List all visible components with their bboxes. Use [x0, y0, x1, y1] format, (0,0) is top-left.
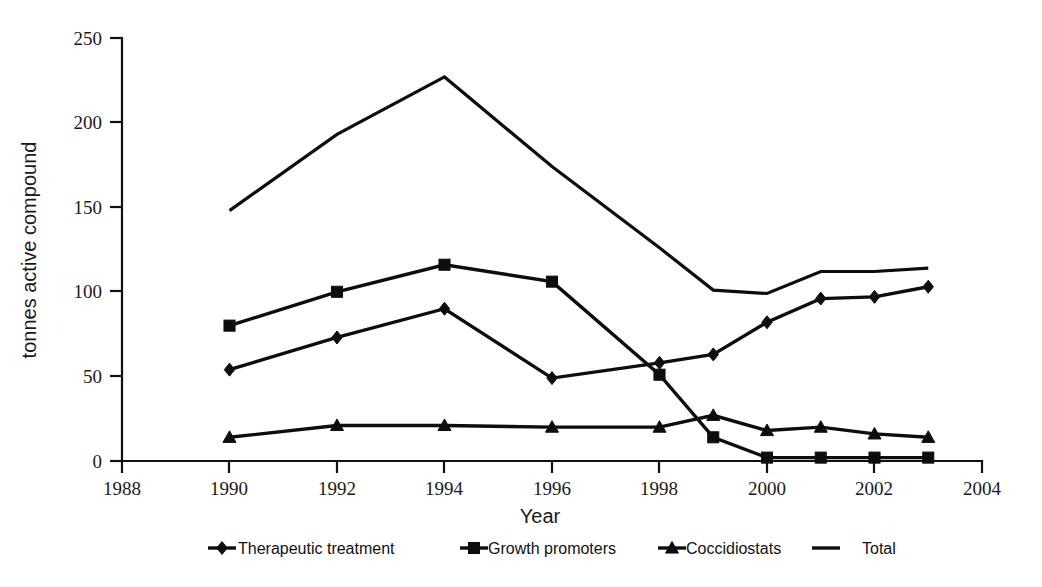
- data-point-0-2003: [923, 280, 933, 293]
- data-point-0-1996: [547, 372, 557, 385]
- legend-label-3: Total: [862, 540, 896, 557]
- data-point-0-2000: [762, 316, 772, 329]
- legend-label-0: Therapeutic treatment: [238, 540, 395, 557]
- y-tick-label-150: 150: [74, 197, 103, 218]
- y-axis: 250 200 150 100 50 0 tonnes active compo…: [18, 28, 122, 472]
- data-point-0-2002: [869, 290, 879, 303]
- square-marker-icon: [468, 542, 479, 553]
- series-total: [230, 77, 929, 294]
- data-point-1-1992: [331, 286, 342, 297]
- data-point-1-2002: [869, 452, 880, 463]
- x-axis: 1988 1990 1992 1994 1996 1998 2000 2002 …: [103, 461, 1002, 527]
- legend-item-0[interactable]: Therapeutic treatment: [208, 540, 395, 557]
- data-point-0-1994: [439, 302, 449, 315]
- data-point-1-1999: [708, 432, 719, 443]
- series-therapeutic-treatment: [224, 280, 933, 384]
- data-point-1-1994: [439, 259, 450, 270]
- x-tick-label-1992: 1992: [318, 478, 356, 499]
- legend-label-2: Coccidiostats: [686, 540, 781, 557]
- series-coccidiostats: [223, 409, 935, 443]
- data-point-1-2000: [761, 452, 772, 463]
- x-tick-label-1998: 1998: [640, 478, 678, 499]
- y-axis-title: tonnes active compound: [18, 142, 40, 359]
- data-point-1-2003: [923, 452, 934, 463]
- line-chart: 250 200 150 100 50 0 tonnes active compo…: [0, 0, 1042, 587]
- legend-item-2[interactable]: Coccidiostats: [658, 540, 781, 557]
- data-point-0-1990: [224, 363, 234, 376]
- x-tick-label-2002: 2002: [855, 478, 893, 499]
- x-tick-label-1988: 1988: [103, 478, 141, 499]
- x-tick-label-2004: 2004: [963, 478, 1002, 499]
- x-axis-title: Year: [520, 505, 561, 527]
- y-tick-label-250: 250: [74, 28, 103, 49]
- series-line-3: [230, 77, 929, 294]
- legend-item-1[interactable]: Growth promoters: [460, 540, 616, 557]
- chart-canvas: 250 200 150 100 50 0 tonnes active compo…: [0, 0, 1042, 587]
- y-tick-label-0: 0: [93, 451, 103, 472]
- data-point-0-2001: [816, 292, 826, 305]
- data-point-1-1996: [546, 276, 557, 287]
- y-tick-label-200: 200: [74, 112, 103, 133]
- diamond-marker-icon: [217, 542, 227, 555]
- data-point-0-1999: [708, 348, 718, 361]
- data-point-1-1998: [654, 369, 665, 380]
- y-tick-label-100: 100: [74, 281, 103, 302]
- x-tick-label-1990: 1990: [210, 478, 248, 499]
- y-tick-label-50: 50: [83, 366, 102, 387]
- series-layer: [223, 77, 935, 463]
- legend-label-1: Growth promoters: [488, 540, 616, 557]
- data-point-0-1992: [332, 331, 342, 344]
- data-point-1-1990: [224, 320, 235, 331]
- data-point-1-2001: [815, 452, 826, 463]
- x-tick-label-1996: 1996: [533, 478, 571, 499]
- data-point-0-1998: [654, 356, 664, 369]
- x-tick-label-2000: 2000: [748, 478, 786, 499]
- chart-legend: Therapeutic treatmentGrowth promotersCoc…: [208, 540, 896, 557]
- x-tick-label-1994: 1994: [425, 478, 464, 499]
- legend-item-3[interactable]: Total: [812, 540, 896, 557]
